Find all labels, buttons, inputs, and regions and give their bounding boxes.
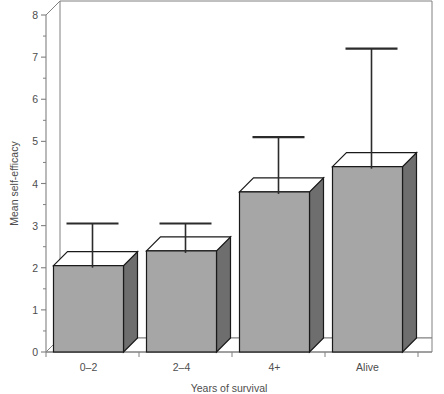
- bar-top-face: [147, 237, 231, 251]
- bar-front-face: [54, 266, 124, 352]
- y-axis-tick-label: 6: [32, 93, 38, 105]
- y-axis-tick-label: 8: [32, 9, 38, 21]
- bar-side-face: [403, 153, 417, 352]
- y-axis-tick-label: 2: [32, 262, 38, 274]
- bar-side-face: [310, 178, 324, 352]
- y-axis-title: Mean self-efficacy: [8, 141, 20, 226]
- bar-group: [240, 178, 324, 352]
- bar-group: [54, 252, 138, 352]
- bar-chart-figure: 0123456780–22–44+AliveMean self-efficacy…: [0, 0, 444, 394]
- x-axis-category-label: 0–2: [80, 361, 98, 373]
- x-axis-category-label: Alive: [356, 361, 379, 373]
- bar-top-face: [54, 252, 138, 266]
- bar-front-face: [333, 167, 403, 352]
- x-axis-category-label: 4+: [269, 361, 281, 373]
- x-axis-title: Years of survival: [191, 382, 268, 394]
- bar-group: [333, 153, 417, 352]
- axis-depth-connector-top: [46, 1, 60, 15]
- bar-side-face: [217, 237, 231, 352]
- y-axis-tick-label: 4: [32, 178, 38, 190]
- y-axis-tick-label: 7: [32, 51, 38, 63]
- bar-side-face: [124, 252, 138, 352]
- y-axis-tick-label: 0: [32, 346, 38, 358]
- bar-top-face: [333, 153, 417, 167]
- chart-canvas: 0123456780–22–44+AliveMean self-efficacy…: [0, 0, 444, 394]
- bar-group: [147, 237, 231, 352]
- bar-front-face: [240, 192, 310, 352]
- y-axis-tick-label: 1: [32, 304, 38, 316]
- y-axis-tick-label: 5: [32, 135, 38, 147]
- y-axis-tick-label: 3: [32, 220, 38, 232]
- x-axis-category-label: 2–4: [173, 361, 191, 373]
- bar-front-face: [147, 251, 217, 352]
- bar-top-face: [240, 178, 324, 192]
